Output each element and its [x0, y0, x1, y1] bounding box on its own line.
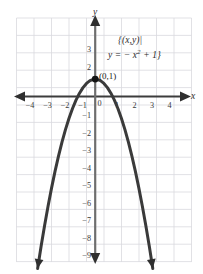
svg-text:2: 2 [132, 101, 136, 110]
svg-text:−8: −8 [82, 234, 91, 243]
svg-text:0: 0 [97, 99, 101, 108]
svg-text:3: 3 [150, 101, 154, 110]
svg-text:−9: −9 [82, 251, 91, 260]
x-axis-right-arrow-icon [180, 92, 191, 102]
svg-text:−2: −2 [61, 101, 70, 110]
svg-text:−1: −1 [82, 111, 91, 120]
vertex-point [92, 76, 99, 83]
svg-text:−6: −6 [82, 199, 91, 208]
vertex-coordinate-label: (0,1) [99, 72, 116, 81]
grid-lines [17, 18, 192, 262]
svg-text:−3: −3 [43, 101, 52, 110]
svg-text:−5: −5 [82, 181, 91, 190]
svg-text:−4: −4 [82, 164, 91, 173]
x-axis [14, 92, 191, 102]
y-axis-label: y [93, 8, 97, 18]
set-notation-expression-prefix: y = − x [108, 50, 137, 60]
set-notation-line-1: {(x,y)| [118, 36, 161, 46]
svg-text:3: 3 [87, 45, 91, 54]
svg-text:−1: −1 [78, 101, 87, 110]
set-notation-line-2: y = − x2 + 1} [108, 49, 161, 61]
set-notation-expression-suffix: + 1} [141, 50, 161, 60]
x-tick-labels: −4 −3 −2 −1 0 1 2 3 4 [26, 99, 172, 111]
x-axis-left-arrow-icon [14, 92, 25, 102]
svg-text:−4: −4 [26, 101, 35, 110]
svg-text:4: 4 [167, 101, 171, 110]
svg-text:2: 2 [87, 63, 91, 72]
parabola-plot: −4 −3 −2 −1 0 1 2 3 4 3 2 −1 −2 −3 −4 −5… [0, 0, 203, 274]
y-axis-down-arrow-icon [90, 253, 100, 264]
svg-text:−3: −3 [82, 146, 91, 155]
svg-text:−7: −7 [82, 216, 91, 225]
set-builder-notation: {(x,y)| y = − x2 + 1} [118, 36, 161, 61]
x-axis-label: x [191, 92, 195, 102]
graph-figure: −4 −3 −2 −1 0 1 2 3 4 3 2 −1 −2 −3 −4 −5… [0, 0, 203, 274]
svg-text:−2: −2 [82, 129, 91, 138]
